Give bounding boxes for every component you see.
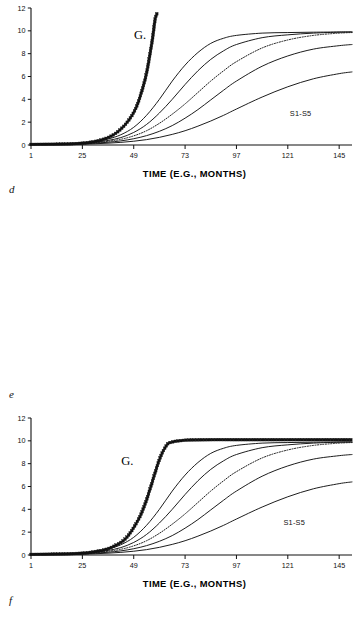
series-markers-G xyxy=(30,438,352,555)
x-tick-label: 49 xyxy=(130,561,138,570)
x-tick-label: 25 xyxy=(78,151,86,160)
x-tick-label: 121 xyxy=(282,151,294,160)
y-tick-label: 8 xyxy=(22,459,26,468)
panel-letter-f: f xyxy=(9,594,12,606)
series-line-S5 xyxy=(31,72,352,145)
x-axis-title: TIME (E.G., MONTHS) xyxy=(143,168,246,179)
series-group-label: S1-S5 xyxy=(290,109,312,118)
x-tick-label: 145 xyxy=(333,151,345,160)
y-tick-label: 8 xyxy=(22,49,26,58)
x-tick-label: 73 xyxy=(181,151,189,160)
x-tick-label: 97 xyxy=(232,151,240,160)
series-line-S3 xyxy=(31,443,352,555)
y-tick-label: 2 xyxy=(22,118,26,127)
series-line-G xyxy=(31,440,352,555)
y-tick-label: 6 xyxy=(22,482,26,491)
x-tick-label: 1 xyxy=(29,151,33,160)
series-line-S4 xyxy=(31,45,352,145)
panel-letter-e: e xyxy=(9,388,14,400)
y-tick-label: 12 xyxy=(18,414,26,423)
y-tick-label: 6 xyxy=(22,72,26,81)
x-tick-label: 73 xyxy=(181,561,189,570)
y-tick-label: 4 xyxy=(22,505,26,514)
chart-svg-e: 024681012125497397121145G.S1-S5TIME (E.G… xyxy=(0,410,363,615)
panel-letter-d: d xyxy=(9,183,15,195)
series-line-S2 xyxy=(31,32,352,144)
y-tick-label: 4 xyxy=(22,95,26,104)
g-curve-label: G. xyxy=(121,454,133,468)
series-line-S2 xyxy=(31,442,352,554)
g-curve-label: G. xyxy=(134,28,146,42)
y-tick-label: 10 xyxy=(18,436,26,445)
y-tick-label: 10 xyxy=(18,26,26,35)
chart-svg-d: 024681012125497397121145G.S1-S5TIME (E.G… xyxy=(0,0,363,205)
y-tick-label: 0 xyxy=(22,141,26,150)
chart-panel-e: 024681012125497397121145G.S1-S5TIME (E.G… xyxy=(0,410,363,615)
y-tick-label: 2 xyxy=(22,528,26,537)
series-line-S1 xyxy=(31,442,352,554)
y-tick-label: 0 xyxy=(22,551,26,560)
series-line-S1 xyxy=(31,32,352,144)
x-tick-label: 121 xyxy=(282,561,294,570)
series-line-S3 xyxy=(31,33,352,145)
x-axis-title: TIME (E.G., MONTHS) xyxy=(143,578,246,589)
figure-page: 024681012125497397121145G.S1-S5TIME (E.G… xyxy=(0,0,363,617)
series-line-S4 xyxy=(31,455,352,555)
chart-panel-d: 024681012125497397121145G.S1-S5TIME (E.G… xyxy=(0,0,363,205)
x-tick-label: 49 xyxy=(130,151,138,160)
x-tick-label: 1 xyxy=(29,561,33,570)
series-group-label: S1-S5 xyxy=(283,518,305,527)
x-tick-label: 145 xyxy=(333,561,345,570)
x-tick-label: 97 xyxy=(232,561,240,570)
y-tick-label: 12 xyxy=(18,4,26,13)
x-tick-label: 25 xyxy=(78,561,86,570)
